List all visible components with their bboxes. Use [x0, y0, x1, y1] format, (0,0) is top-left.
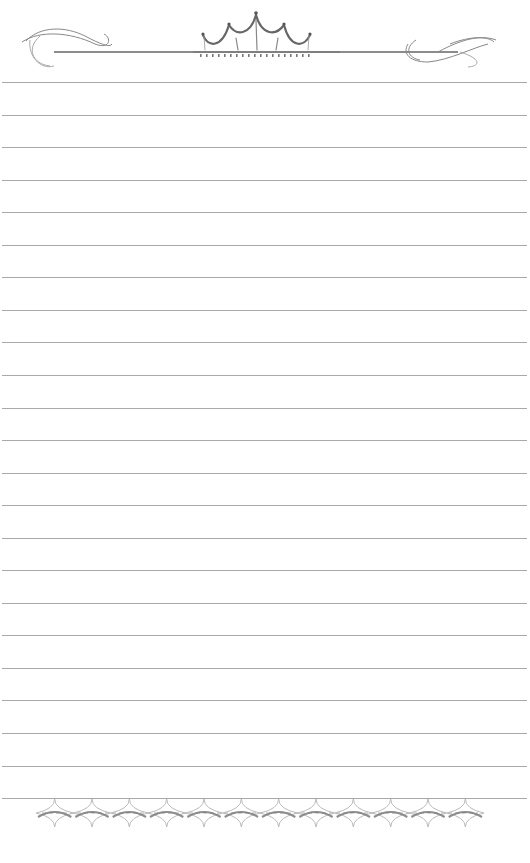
crown-arches: [201, 11, 311, 50]
crown-fringe: [200, 54, 310, 57]
left-scroll-flourish-icon: [22, 29, 112, 67]
writing-area[interactable]: [0, 70, 530, 800]
crown-flourish-icon: [0, 0, 530, 70]
stationery-page: [0, 0, 530, 863]
